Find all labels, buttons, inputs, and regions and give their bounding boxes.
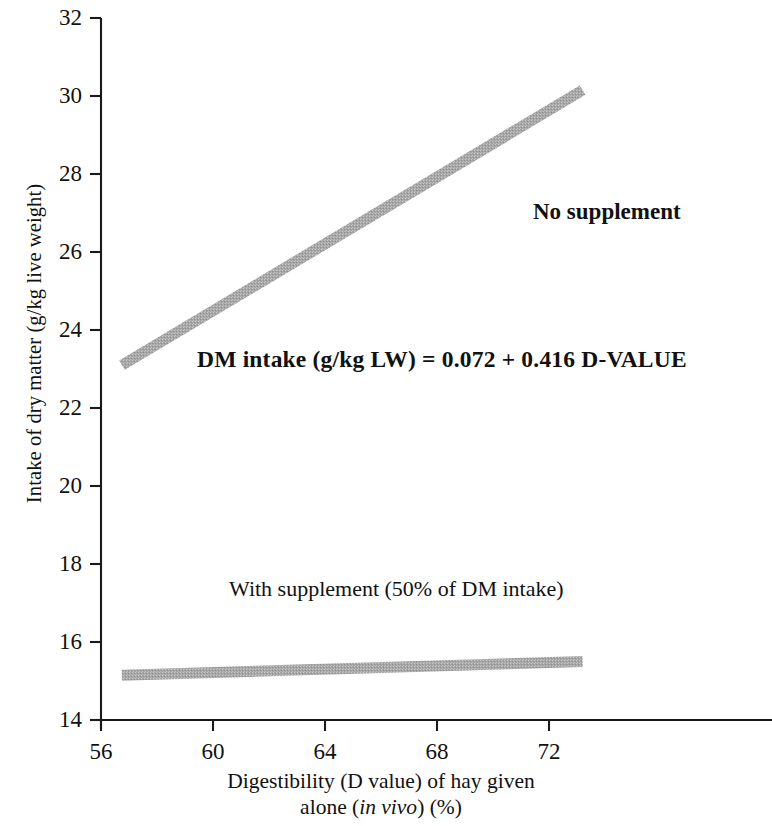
y-axis-title: Intake of dry matter (g/kg live weight) [23,24,46,664]
series-line-1 [122,662,583,676]
x-tick-label: 72 [538,740,561,763]
y-tick-label: 26 [59,240,82,263]
x-axis-title-line2: alone (in vivo) (%) [101,794,661,820]
x-axis-title: Digestibility (D value) of hay given alo… [101,768,661,820]
series-line-0 [122,90,583,365]
chart-figure: Intake of dry matter (g/kg live weight) … [0,0,772,826]
y-tick-label: 30 [59,84,82,107]
axis-tick-marks [90,18,549,731]
y-tick-label: 14 [59,708,82,731]
y-tick-label: 16 [59,630,82,653]
annotation-regression-equation: DM intake (g/kg LW) = 0.072 + 0.416 D-VA… [197,348,687,372]
x-tick-label: 60 [202,740,225,763]
x-axis-title-line2-italic: in vivo [359,795,417,819]
x-tick-label: 64 [314,740,337,763]
plot-area [0,0,772,826]
x-tick-label: 56 [90,740,113,763]
y-tick-label: 32 [59,6,82,29]
annotation-with-supplement: With supplement (50% of DM intake) [229,578,564,600]
x-tick-label: 68 [426,740,449,763]
y-tick-label: 20 [59,474,82,497]
y-tick-label: 28 [59,162,82,185]
annotation-no-supplement: No supplement [533,200,681,223]
x-axis-title-line2-pre: alone ( [300,795,359,819]
y-tick-label: 18 [59,552,82,575]
x-axis-title-line2-post: ) (%) [417,795,462,819]
axis-lines [92,18,772,729]
y-tick-label: 24 [59,318,82,341]
x-axis-title-line1: Digestibility (D value) of hay given [101,768,661,794]
y-tick-label: 22 [59,396,82,419]
